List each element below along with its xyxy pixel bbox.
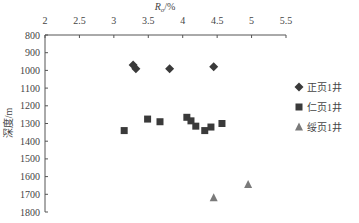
data-point-triangle [210,193,218,201]
scatter-chart: 22.533.544.555.5800900100011001200130014… [0,0,359,223]
data-point-square [218,120,225,127]
data-point-diamond [165,64,174,73]
legend-square-icon [296,104,303,111]
legend-triangle-icon [295,123,303,131]
data-point-square [156,118,163,125]
data-point-square [207,124,214,131]
plot-area: 22.533.544.555.5800900100011001200130014… [2,1,292,218]
legend-diamond-icon [295,83,304,92]
legend-label: 正页1井 [307,81,342,93]
y-tick-label: 1300 [20,118,40,129]
y-tick-label: 900 [25,47,40,58]
data-point-square [121,127,128,134]
data-point-square [144,116,151,123]
x-tick-label: 5 [249,15,254,26]
legend: 正页1井仁页1井绥页1井 [295,81,343,133]
y-tick-label: 1800 [20,207,40,218]
y-tick-label: 1700 [20,189,40,200]
x-tick-label: 4 [180,15,185,26]
legend-label: 仁页1井 [307,101,342,113]
y-tick-label: 1200 [20,100,40,111]
y-tick-label: 1000 [20,65,40,76]
x-tick-label: 3.5 [142,15,155,26]
y-tick-label: 800 [25,30,40,41]
x-tick-label: 2 [43,15,48,26]
y-tick-label: 1600 [20,171,40,182]
data-point-square [192,123,199,130]
y-tick-label: 1100 [20,83,40,94]
data-point-triangle [244,180,252,188]
y-tick-label: 1500 [20,153,40,164]
x-tick-label: 5.5 [280,15,293,26]
x-tick-label: 3 [111,15,116,26]
x-axis-title: Ro/% [154,1,176,14]
data-point-diamond [209,62,218,71]
x-tick-label: 4.5 [211,15,224,26]
data-point-square [201,127,208,134]
x-tick-label: 2.5 [73,15,86,26]
y-tick-label: 1400 [20,136,40,147]
y-axis-title: 深度/m [2,108,14,139]
legend-label: 绥页1井 [307,121,342,133]
